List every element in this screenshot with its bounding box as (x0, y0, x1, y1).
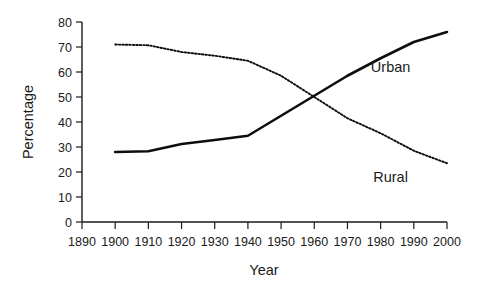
y-tick-label: 70 (58, 41, 72, 55)
x-tick-label: 1950 (267, 235, 295, 249)
x-tick-label: 2000 (433, 235, 461, 249)
chart-canvas: 01020304050607080 1890190019101920193019… (0, 0, 486, 288)
x-tick-label: 1970 (334, 235, 362, 249)
x-tick-label: 1930 (201, 235, 229, 249)
x-tick-label-group: 1890190019101920193019401950196019701980… (68, 235, 461, 249)
x-tick-label: 1980 (367, 235, 395, 249)
y-tick-label: 50 (58, 91, 72, 105)
series-line-urban (115, 32, 447, 152)
y-tick-label: 0 (65, 216, 72, 230)
x-tick-label: 1890 (68, 235, 96, 249)
y-tick-label-group: 01020304050607080 (58, 16, 72, 230)
series-annotation-group: UrbanRural (371, 59, 411, 185)
y-tick-group (76, 22, 82, 222)
y-axis-title: Percentage (20, 85, 36, 159)
x-axis-title: Year (249, 262, 278, 278)
x-tick-label: 1900 (101, 235, 129, 249)
x-tick-label: 1990 (400, 235, 428, 249)
x-axis: 1890190019101920193019401950196019701980… (68, 222, 461, 249)
y-axis: 01020304050607080 (58, 16, 82, 230)
series-annotation-rural: Rural (373, 169, 408, 185)
x-tick-label: 1910 (134, 235, 162, 249)
series-group (115, 32, 447, 163)
x-tick-label: 1920 (168, 235, 196, 249)
y-tick-label: 30 (58, 141, 72, 155)
y-tick-label: 40 (58, 116, 72, 130)
x-tick-label: 1940 (234, 235, 262, 249)
x-tick-group (82, 222, 447, 229)
y-tick-label: 60 (58, 66, 72, 80)
y-tick-label: 10 (58, 191, 72, 205)
y-tick-label: 20 (58, 166, 72, 180)
line-chart: 01020304050607080 1890190019101920193019… (0, 0, 486, 288)
y-tick-label: 80 (58, 16, 72, 30)
x-tick-label: 1960 (300, 235, 328, 249)
series-annotation-urban: Urban (371, 59, 411, 75)
